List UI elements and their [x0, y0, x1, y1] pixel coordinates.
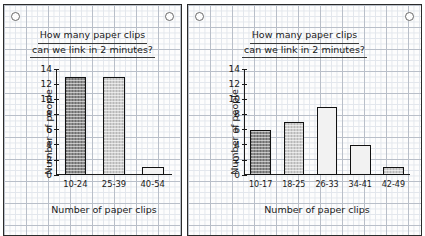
bar-slot: [133, 69, 172, 175]
y-tick: [242, 129, 247, 130]
y-tick: [242, 99, 247, 100]
bar: [383, 167, 404, 175]
y-tick: [54, 175, 59, 176]
y-tick: [242, 84, 247, 85]
x-axis-label: Number of paper clips: [222, 204, 412, 215]
y-tick-label: 6: [46, 125, 52, 135]
y-tick-label: 6: [234, 125, 240, 135]
bar: [284, 122, 305, 175]
bar: [350, 145, 371, 175]
y-tick: [242, 69, 247, 70]
x-tick-label-group-left: 10-2425-3940-54: [56, 179, 172, 189]
bar-slot: [277, 69, 310, 175]
hole-punch-icon: [165, 12, 174, 21]
x-tick-label: 10-17: [244, 180, 277, 189]
y-tick-label: 12: [41, 79, 52, 89]
y-tick: [54, 84, 59, 85]
bar-group-right: [244, 69, 410, 175]
x-tick-label: 34-41: [344, 180, 377, 189]
y-tick-label: 12: [229, 79, 240, 89]
y-tick-label: 2: [46, 155, 52, 165]
chart-title-right: How many paper clips can we link in 2 mi…: [188, 29, 421, 58]
chart-title-line1: How many paper clips: [38, 29, 148, 44]
bar-group-left: [56, 69, 172, 175]
chart-panel-left: How many paper clips can we link in 2 mi…: [3, 4, 182, 235]
hole-punch-icon: [11, 12, 20, 21]
y-tick: [54, 129, 59, 130]
y-tick: [54, 99, 59, 100]
chart-title-line1: How many paper clips: [250, 29, 360, 44]
x-tick-label: 18-25: [277, 180, 310, 189]
x-tick-label: 25-39: [95, 179, 134, 189]
bar: [317, 107, 338, 175]
axes-left: 02468101214: [56, 69, 172, 175]
x-tick-label: 10-24: [56, 179, 95, 189]
chart-panel-right: How many paper clips can we link in 2 mi…: [187, 4, 422, 235]
bar-slot: [95, 69, 134, 175]
y-tick: [242, 114, 247, 115]
hole-punch-icon: [405, 12, 414, 21]
bar: [142, 167, 164, 175]
x-tick-label: 42-49: [377, 180, 410, 189]
x-tick-label: 26-33: [310, 180, 343, 189]
y-tick: [242, 144, 247, 145]
y-tick-label: 14: [41, 64, 52, 74]
y-tick: [54, 160, 59, 161]
plot-area-right: Number of people 02468101214 10-1718-252…: [222, 67, 412, 197]
bar-slot: [310, 69, 343, 175]
chart-title-line2: can we link in 2 minutes?: [242, 44, 367, 59]
bar: [103, 77, 125, 175]
x-tick-label-group-right: 10-1718-2526-3334-4142-49: [244, 180, 410, 189]
bar-slot: [244, 69, 277, 175]
y-tick-label: 4: [46, 140, 52, 150]
chart-title-line2: can we link in 2 minutes?: [30, 44, 155, 59]
y-tick-label: 0: [234, 170, 240, 180]
y-tick: [54, 114, 59, 115]
y-tick-label: 10: [41, 94, 52, 104]
worksheet-page: How many paper clips can we link in 2 mi…: [0, 0, 425, 235]
y-tick-label: 2: [234, 155, 240, 165]
bar-slot: [344, 69, 377, 175]
y-tick-label: 8: [234, 109, 240, 119]
x-tick-label: 40-54: [133, 179, 172, 189]
x-axis-label: Number of paper clips: [34, 204, 174, 215]
bar-slot: [377, 69, 410, 175]
y-tick: [54, 69, 59, 70]
y-tick: [242, 160, 247, 161]
y-tick-label: 8: [46, 109, 52, 119]
bar-slot: [56, 69, 95, 175]
y-tick: [242, 175, 247, 176]
y-tick-label: 0: [46, 170, 52, 180]
axes-right: 02468101214: [244, 69, 410, 175]
y-tick-label: 14: [229, 64, 240, 74]
chart-title-left: How many paper clips can we link in 2 mi…: [4, 29, 181, 58]
bar: [65, 77, 87, 175]
y-tick-label: 4: [234, 140, 240, 150]
plot-area-left: Number of people 02468101214 10-2425-394…: [34, 67, 174, 197]
y-tick-label: 10: [229, 94, 240, 104]
bar: [250, 130, 271, 175]
y-tick: [54, 144, 59, 145]
hole-punch-icon: [195, 12, 204, 21]
